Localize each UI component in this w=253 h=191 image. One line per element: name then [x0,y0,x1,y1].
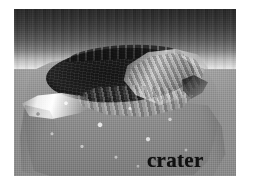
figure-root: crater [0,0,253,191]
crater-annotation-label: crater [147,150,204,171]
crater-micrograph-image: crater [14,9,236,176]
